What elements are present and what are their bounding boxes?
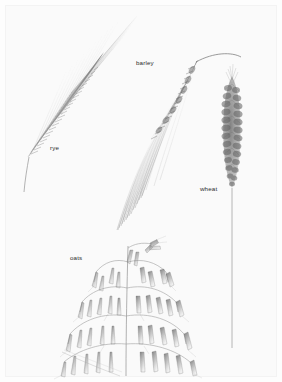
barley-specimen [117,54,241,230]
rye-stem [24,157,29,192]
illustration-plate: rye barley wheat oats [0,0,282,382]
specimen-label-barley: barley [136,60,154,66]
specimen-label-wheat: wheat [200,186,217,192]
wheat-spike-body [221,76,243,188]
oats-rachis [126,246,128,376]
wheat-specimen [221,64,243,348]
rye-awns [28,16,137,157]
specimen-label-oats: oats [70,255,82,261]
grain-illustration-svg [0,0,282,382]
specimen-label-rye: rye [50,145,59,151]
barley-culm [196,54,241,62]
rye-specimen [24,16,137,192]
barley-spike-body [150,60,198,139]
rye-spike-body [29,52,104,157]
